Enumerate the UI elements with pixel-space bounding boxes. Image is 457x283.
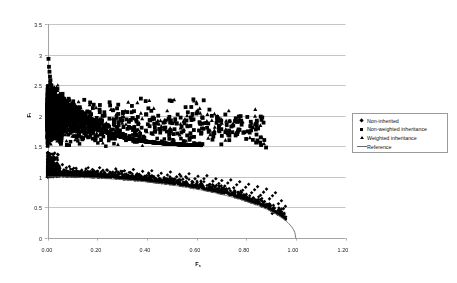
legend-label-3: Reference <box>367 144 391 150</box>
y-tick-label-5: 2.5 <box>14 83 42 89</box>
x-tick-label-1: 0.20 <box>82 247 110 253</box>
triangle-marker-icon <box>356 136 367 139</box>
legend: Non-inherited Non-weighted inheritance W… <box>352 113 448 153</box>
x-tick-label-6: 1.20 <box>329 247 357 253</box>
y-tick-label-6: 3 <box>14 53 42 59</box>
x-tick-label-0: 0.00 <box>33 247 61 253</box>
y-tick-label-0: 0 <box>14 236 42 242</box>
scatter-plot-figure: Fi Fs 0 0.5 1 1.5 2 2.5 3 3.5 0.00 0.20 … <box>0 0 457 283</box>
y-tick-label-1: 0.5 <box>14 205 42 211</box>
y-tick-label-2: 1 <box>14 175 42 181</box>
legend-item-reference: Reference <box>356 142 444 151</box>
x-tick-label-3: 0.60 <box>181 247 209 253</box>
x-tick-label-5: 1.00 <box>279 247 307 253</box>
legend-label-2: Weighted inheritance <box>367 135 417 141</box>
legend-item-non-weighted-inheritance: Non-weighted inheritance <box>356 125 444 134</box>
x-tick-label-2: 0.40 <box>131 247 159 253</box>
y-tick-label-4: 2 <box>14 114 42 120</box>
y-tick-label-7: 3.5 <box>14 22 42 28</box>
square-marker-icon <box>356 128 367 131</box>
line-marker-icon <box>356 146 367 147</box>
y-tick-label-3: 1.5 <box>14 144 42 150</box>
x-tick-label-4: 0.80 <box>230 247 258 253</box>
x-axis-title-subscript: s <box>199 264 201 268</box>
legend-label-1: Non-weighted inheritance <box>367 126 427 132</box>
legend-item-weighted-inheritance: Weighted inheritance <box>356 134 444 143</box>
diamond-marker-icon <box>356 119 367 122</box>
legend-label-0: Non-inherited <box>367 118 399 124</box>
legend-item-non-inherited: Non-inherited <box>356 117 444 126</box>
x-axis-title: Fs <box>178 261 218 268</box>
